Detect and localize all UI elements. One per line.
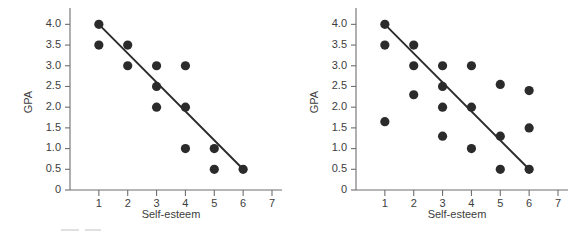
data-point [438,132,447,141]
x-tick-label: 5 [497,197,503,209]
y-tick-label: 4.0 [46,17,61,29]
data-point [380,117,389,126]
data-point [438,61,447,70]
data-point [438,103,447,112]
right-panel: 00.51.01.52.02.53.03.54.01234567Self-est… [286,0,571,238]
x-axis-title: Self-esteem [142,208,201,220]
y-tick-label: 1.5 [46,121,61,133]
data-point [496,80,505,89]
data-point [94,40,103,49]
x-tick-label: 7 [269,197,275,209]
regression-line [99,24,243,169]
data-point [210,144,219,153]
data-point [409,40,418,49]
regression-line [385,24,529,169]
data-point [210,165,219,174]
data-point [152,61,161,70]
data-point [496,165,505,174]
data-point [409,90,418,99]
plot-area-1: 00.51.01.52.02.53.03.54.01234567Self-est… [286,0,571,238]
data-point [380,20,389,29]
y-axis-title: GPA [308,90,320,113]
y-tick-label: 0.5 [46,162,61,174]
data-point [152,103,161,112]
y-tick-label: 3.5 [46,38,61,50]
plot-area-0: 00.51.01.52.02.53.03.54.01234567Self-est… [0,0,285,238]
x-axis-title: Self-esteem [428,208,487,220]
y-axis-title: GPA [22,90,34,113]
data-point [123,61,132,70]
data-point [239,165,248,174]
y-tick-label: 3.0 [332,59,347,71]
data-point [525,86,534,95]
data-point [467,61,476,70]
y-tick-label: 1.0 [46,141,61,153]
data-point [467,103,476,112]
data-point [181,144,190,153]
y-tick-label: 0 [55,183,61,195]
y-tick-label: 1.0 [332,141,347,153]
x-tick-label: 7 [555,197,561,209]
x-tick-label: 6 [240,197,246,209]
y-tick-label: 4.0 [332,17,347,29]
data-point [152,82,161,91]
data-point [409,61,418,70]
caption-artifact [61,228,107,232]
data-point [525,123,534,132]
data-point [496,132,505,141]
y-tick-label: 2.5 [46,79,61,91]
data-point [181,61,190,70]
y-tick-label: 1.5 [332,121,347,133]
y-tick-label: 2.5 [332,79,347,91]
y-tick-label: 3.0 [46,59,61,71]
data-point [525,165,534,174]
x-tick-label: 5 [211,197,217,209]
x-tick-label: 1 [382,197,388,209]
scatterplot-figure: 00.51.01.52.02.53.03.54.01234567Self-est… [0,0,571,238]
data-point [380,40,389,49]
data-point [438,82,447,91]
y-tick-label: 0.5 [332,162,347,174]
y-tick-label: 2.0 [46,100,61,112]
x-tick-label: 6 [526,197,532,209]
data-point [181,103,190,112]
x-tick-label: 1 [96,197,102,209]
data-point [94,20,103,29]
x-tick-label: 2 [411,197,417,209]
y-tick-label: 3.5 [332,38,347,50]
y-tick-label: 2.0 [332,100,347,112]
y-tick-label: 0 [341,183,347,195]
x-tick-label: 2 [125,197,131,209]
data-point [467,144,476,153]
data-point [123,40,132,49]
left-panel: 00.51.01.52.02.53.03.54.01234567Self-est… [0,0,285,238]
